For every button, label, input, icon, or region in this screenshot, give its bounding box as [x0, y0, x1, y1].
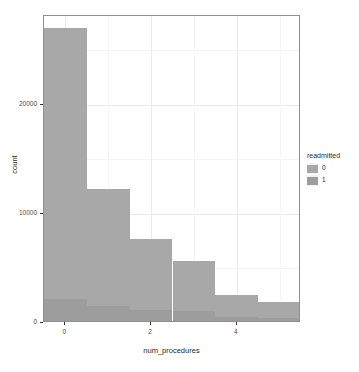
- legend-title: readmitted: [307, 152, 357, 159]
- bar-segment-0: [215, 295, 258, 317]
- legend: readmitted 01: [307, 152, 357, 187]
- x-tick-label: 2: [135, 329, 165, 336]
- legend-items: 01: [307, 163, 357, 186]
- y-tick-label: 0: [33, 319, 37, 326]
- x-tick-mark: [236, 322, 237, 325]
- legend-swatch: [307, 177, 318, 185]
- legend-swatch: [307, 165, 318, 173]
- x-tick-mark: [150, 322, 151, 325]
- bar-segment-0: [130, 239, 173, 310]
- legend-label: 0: [322, 165, 326, 172]
- bar-segment-1: [87, 306, 130, 321]
- x-axis-title: num_procedures: [43, 346, 300, 355]
- y-tick-mark: [40, 104, 43, 105]
- bar-stack: [258, 15, 300, 321]
- bar-stack: [173, 15, 216, 321]
- bar-stack: [215, 15, 258, 321]
- chart-panel: [43, 15, 300, 322]
- bar-segment-0: [258, 302, 300, 318]
- bar-segment-1: [173, 311, 216, 321]
- legend-item[interactable]: 0: [307, 163, 357, 174]
- bar-segment-0: [87, 189, 130, 306]
- bar-segment-1: [130, 310, 173, 321]
- bar-segment-0: [44, 28, 87, 300]
- x-tick-label: 0: [49, 329, 79, 336]
- legend-key: [307, 163, 318, 174]
- y-tick-mark: [40, 213, 43, 214]
- y-tick-label: 20000: [19, 101, 37, 108]
- x-tick-label: 4: [221, 329, 251, 336]
- legend-item[interactable]: 1: [307, 175, 357, 186]
- bar-segment-0: [173, 261, 216, 311]
- legend-label: 1: [322, 177, 326, 184]
- x-tick-mark: [64, 322, 65, 325]
- bar-segment-1: [258, 318, 300, 321]
- y-tick-label: 10000: [19, 210, 37, 217]
- bar-stack: [130, 15, 173, 321]
- bar-stack: [44, 15, 87, 321]
- bar-segment-1: [215, 317, 258, 321]
- y-tick-mark: [40, 322, 43, 323]
- y-axis-title: count: [10, 135, 19, 195]
- bar-segment-1: [44, 299, 87, 321]
- legend-key: [307, 175, 318, 186]
- chart-plot-area: 01000020000 024 num_procedures count rea…: [0, 0, 359, 372]
- bar-stack: [87, 15, 130, 321]
